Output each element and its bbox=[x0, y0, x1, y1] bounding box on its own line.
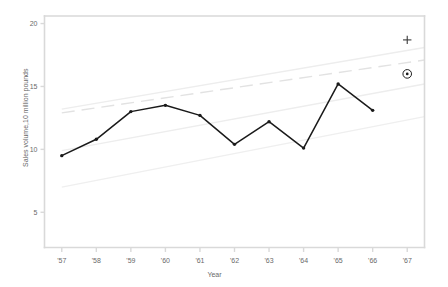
x-tick-label-62: '62 bbox=[230, 257, 239, 264]
chart-container: 5101520 '57'58'59'60'61'62'63'64'65'66'6… bbox=[0, 0, 448, 287]
x-tick-label-61: '61 bbox=[195, 257, 204, 264]
data-point-63 bbox=[267, 120, 270, 123]
plot-background bbox=[45, 16, 425, 248]
data-point-61 bbox=[198, 114, 201, 117]
data-point-65 bbox=[336, 82, 339, 85]
data-point-59 bbox=[129, 110, 132, 113]
data-point-66 bbox=[371, 109, 374, 112]
x-tick-label-63: '63 bbox=[264, 257, 273, 264]
data-point-62 bbox=[233, 143, 236, 146]
y-tick-label-10: 10 bbox=[30, 146, 38, 153]
x-tick-label-58: '58 bbox=[92, 257, 101, 264]
x-tick-label-60: '60 bbox=[161, 257, 170, 264]
y-tick-label-20: 20 bbox=[30, 20, 38, 27]
data-point-60 bbox=[164, 104, 167, 107]
data-point-64 bbox=[302, 146, 305, 149]
x-tick-label-65: '65 bbox=[334, 257, 343, 264]
sales-volume-line-chart: 5101520 '57'58'59'60'61'62'63'64'65'66'6… bbox=[0, 0, 448, 287]
data-point-57 bbox=[60, 154, 63, 157]
x-axis: '57'58'59'60'61'62'63'64'65'66'67 bbox=[57, 248, 412, 264]
x-axis-title: Year bbox=[207, 271, 222, 278]
y-tick-label-15: 15 bbox=[30, 83, 38, 90]
y-axis-title: Sales volume,10 million pounds bbox=[22, 68, 30, 167]
x-tick-label-57: '57 bbox=[57, 257, 66, 264]
y-axis: 5101520 bbox=[30, 20, 45, 216]
x-tick-label-67: '67 bbox=[403, 257, 412, 264]
y-tick-label-5: 5 bbox=[34, 209, 38, 216]
x-tick-label-59: '59 bbox=[126, 257, 135, 264]
x-tick-label-64: '64 bbox=[299, 257, 308, 264]
data-point-58 bbox=[95, 138, 98, 141]
x-tick-label-66: '66 bbox=[368, 257, 377, 264]
